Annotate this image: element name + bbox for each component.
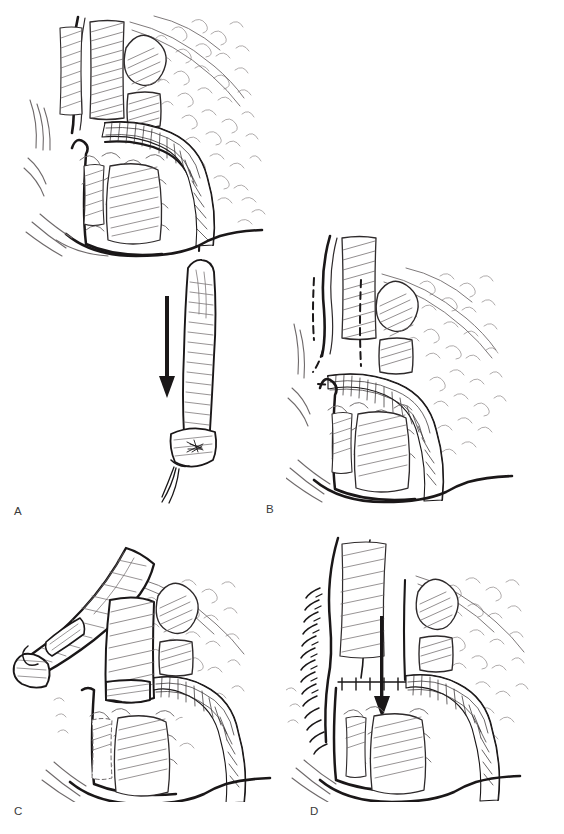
closure-base-stitches — [338, 678, 406, 690]
skin-fold-lines — [24, 100, 50, 196]
panel-label-b: B — [266, 504, 274, 516]
panel-c-illustration — [6, 530, 278, 802]
defect-step — [106, 680, 150, 703]
panel-label-a: A — [14, 506, 22, 518]
panel-d-illustration — [286, 530, 558, 802]
right-margin-texture — [238, 197, 265, 224]
panel-d — [286, 530, 558, 802]
panel-b — [286, 232, 558, 504]
suture-line — [301, 588, 327, 754]
figure-plate: A — [0, 0, 564, 834]
left-margin-texture — [54, 698, 68, 733]
perineal-fold-lines — [292, 760, 336, 802]
panel-label-c: C — [14, 806, 23, 818]
panel-a-graft-inset — [138, 256, 264, 510]
lobular-tissue-mass — [90, 708, 177, 796]
panel-a-illustration — [6, 8, 276, 258]
flap-incision-edge — [404, 580, 405, 680]
hatched-block-middle — [159, 640, 193, 676]
lobular-tissue-mass — [328, 402, 415, 492]
muscle-hatch-strip — [60, 27, 82, 115]
transfer-arrow-icon — [159, 296, 175, 398]
hatched-block-middle — [379, 338, 413, 374]
perineal-fold-lines — [42, 762, 86, 802]
caption-strip — [0, 826, 564, 834]
muscle-hatch-column — [90, 21, 124, 120]
left-margin-texture — [286, 688, 300, 723]
skin-fold-lines — [288, 324, 310, 426]
perineal-contour — [66, 230, 262, 256]
lobular-tissue-mass — [344, 706, 431, 794]
panel-label-d: D — [310, 806, 319, 818]
panel-a — [6, 8, 276, 258]
hatched-nodule-upper — [376, 281, 418, 336]
hatched-nodule-upper — [416, 579, 458, 629]
exposed-tissue-bed — [106, 597, 155, 702]
ligated-graft-end — [162, 428, 216, 503]
hatched-block-middle — [419, 636, 453, 672]
advanced-flap-edge — [325, 538, 338, 742]
hatched-nodule-upper — [156, 583, 198, 633]
hatched-nodule-upper — [124, 35, 166, 90]
body-wall-inner-line — [330, 238, 337, 354]
body-wall-contour — [322, 236, 330, 356]
muscle-hatch-column — [342, 237, 376, 340]
panel-c — [6, 530, 278, 802]
suture-knots — [311, 594, 322, 693]
graft-inset-illustration — [138, 256, 264, 510]
perineal-fold-lines — [286, 460, 330, 502]
panel-b-illustration — [286, 232, 558, 504]
suture-tails — [162, 467, 179, 503]
muscle-hatch-column — [340, 542, 386, 658]
